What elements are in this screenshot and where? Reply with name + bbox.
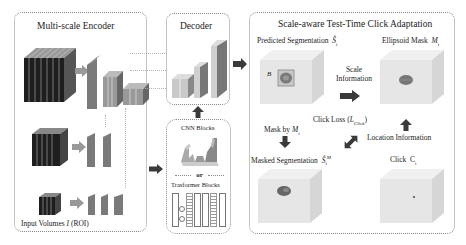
arrow-up-icon [400, 119, 412, 131]
input-volume-medium [30, 126, 70, 168]
location-information-label: Location Information [367, 133, 431, 142]
decoder-title: Decoder [180, 21, 212, 31]
adaptation-title: Scale-aware Test-Time Click Adaptation [278, 19, 432, 29]
arrow-right-icon [233, 58, 247, 70]
cnn-blocks-title: CNN Blocks [181, 124, 214, 131]
arrow-down-icon [279, 136, 291, 148]
skip-connection-line [125, 108, 126, 188]
decoder-panel: Decoder [166, 13, 230, 105]
double-arrow-icon [342, 133, 360, 151]
box-label: B [267, 70, 271, 78]
predicted-segmentation-label: Predicted Segmentation Ŝi [257, 36, 337, 47]
mask-by-label: Mask by Mi [264, 125, 300, 136]
encoder-title: Multi-scale Encoder [37, 21, 114, 31]
skip-connection-line [130, 88, 170, 89]
encoder-feature-7 [101, 193, 111, 215]
input-volume-small [37, 191, 63, 217]
arrow-right-icon [149, 164, 163, 174]
decoder-feature-2 [194, 62, 208, 98]
encoder-feature-3 [123, 83, 149, 105]
arrow-right-icon [340, 90, 360, 102]
encoder-feature-6 [88, 193, 98, 215]
arrow-right-icon [70, 197, 84, 209]
encoder-feature-4 [87, 131, 99, 167]
skip-connection-line [105, 115, 106, 127]
click-label: Click Ci [390, 155, 416, 166]
masked-segmentation-cube [258, 167, 324, 225]
encoder-feature-8 [114, 193, 126, 215]
input-volumes-label: Input Volumes I (ROI) [21, 219, 89, 228]
masked-segmentation-label: Masked Segmentation ŜiM [251, 155, 331, 166]
ellipsoid-mask-cube [380, 48, 446, 106]
cnn-blocks-illustration [179, 134, 221, 168]
or-label: or [167, 171, 232, 179]
encoder-feature-5 [103, 131, 115, 167]
scale-information-label: Scale Information [334, 65, 374, 83]
arrow-right-icon [72, 141, 86, 153]
blocks-panel: CNN Blocks or Trasformer Blocks [166, 119, 231, 234]
click-cube [380, 167, 446, 225]
ellipsoid-mask-label: Ellipsoid Mask Mi [382, 36, 439, 47]
transformer-blocks-title: Trasformer Blocks [171, 181, 220, 188]
decoder-feature-1 [172, 74, 194, 98]
arrow-up-icon [192, 106, 204, 118]
encoder-panel: Multi-scale Encoder [14, 12, 147, 232]
click-loss-label: Click Loss (LClick) [313, 115, 367, 126]
transformer-blocks-illustration [172, 192, 227, 228]
adaptation-panel: Scale-aware Test-Time Click Adaptation P… [249, 12, 455, 234]
decoder-feature-3 [211, 40, 227, 98]
encoder-feature-1 [87, 53, 101, 109]
input-volume-large [20, 46, 80, 106]
encoder-feature-2 [103, 71, 123, 107]
